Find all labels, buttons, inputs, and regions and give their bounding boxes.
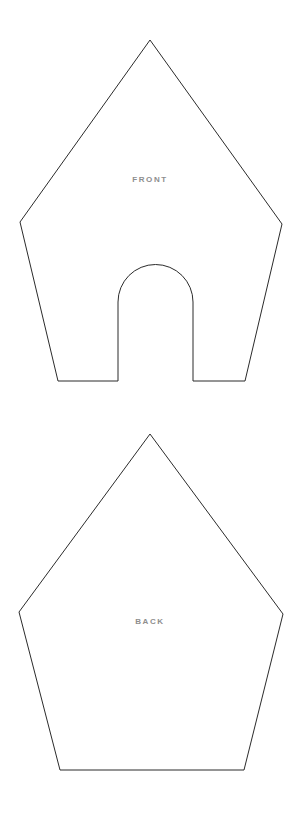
front-piece-label: FRONT bbox=[132, 175, 168, 184]
back-piece-label: BACK bbox=[135, 617, 165, 626]
template-sheet: FRONT BACK bbox=[0, 0, 302, 813]
template-canvas: FRONT BACK bbox=[0, 0, 302, 813]
